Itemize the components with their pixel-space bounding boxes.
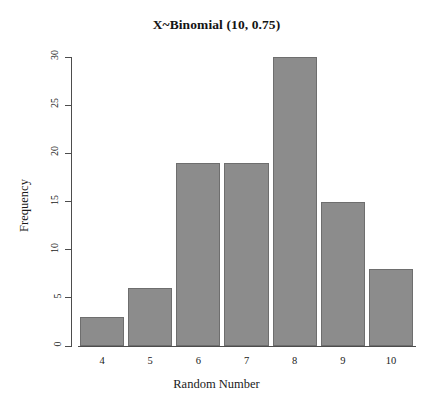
x-axis-title: Random Number (0, 377, 433, 392)
y-axis-tick-label-text: 20 (50, 146, 60, 156)
y-axis-title-text: Frequency (17, 179, 32, 232)
y-axis-tick-label-text: 30 (50, 50, 60, 60)
x-axis-tick-label: 6 (176, 355, 220, 366)
y-axis-tick (65, 346, 71, 347)
y-axis-tick (65, 105, 71, 106)
y-axis-tick (65, 57, 71, 58)
x-axis-tick-label: 7 (225, 355, 269, 366)
y-axis-tick-label-text: 0 (53, 342, 63, 347)
y-axis-tick-label-text: 10 (50, 243, 60, 253)
x-axis-tick-label: 10 (369, 355, 413, 366)
y-axis-tick-label-text: 15 (50, 195, 60, 205)
x-axis-line (78, 346, 416, 347)
x-axis-tick-label: 8 (273, 355, 317, 366)
bar (224, 163, 268, 346)
y-axis-tick-label: 0 (22, 339, 60, 349)
bar (176, 163, 220, 346)
bar (128, 288, 172, 346)
bar (273, 57, 317, 346)
y-axis-tick-label: 30 (22, 50, 60, 60)
bar (80, 317, 124, 346)
x-axis-tick-label: 4 (80, 355, 124, 366)
y-axis-tick-label-text: 5 (53, 293, 63, 298)
y-axis-line (71, 57, 72, 347)
plot-area (78, 57, 415, 346)
bar (369, 269, 413, 346)
y-axis-tick-label: 25 (22, 98, 60, 108)
bar (321, 202, 365, 347)
x-axis-tick-label: 5 (128, 355, 172, 366)
histogram-chart: X~Binomial (10, 0.75) 051015202530 45678… (0, 0, 433, 410)
y-axis-tick (65, 201, 71, 202)
y-axis-tick (65, 297, 71, 298)
y-axis-title: Frequency (14, 150, 34, 260)
y-axis-tick-label: 5 (22, 291, 60, 301)
y-axis-tick (65, 249, 71, 250)
y-axis-tick (65, 153, 71, 154)
y-axis-tick-label-text: 25 (50, 98, 60, 108)
x-axis-tick-label: 9 (321, 355, 365, 366)
chart-title: X~Binomial (10, 0.75) (0, 17, 433, 33)
